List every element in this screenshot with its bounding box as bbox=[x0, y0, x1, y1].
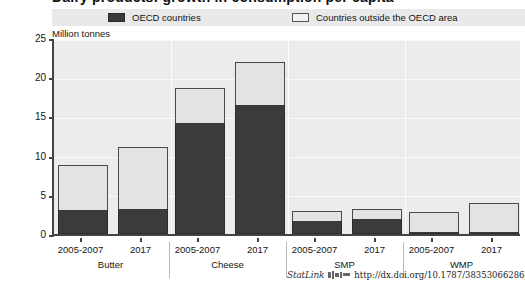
x-tick-mark bbox=[491, 238, 493, 242]
y-tick-mark-20 bbox=[49, 78, 54, 80]
x-tick-mark bbox=[314, 238, 316, 242]
y-tick-label-10: 10 bbox=[8, 152, 46, 162]
gridline-25 bbox=[54, 40, 520, 41]
bar-butter-2005-2007 bbox=[58, 165, 108, 234]
x-period-label-butter-2005-2007: 2005-2007 bbox=[51, 244, 111, 255]
bar-segment-oecd bbox=[409, 232, 459, 234]
bar-cheese-2017 bbox=[235, 62, 285, 234]
bar-segment-non-oecd bbox=[469, 203, 519, 232]
y-tick-mark-10 bbox=[49, 157, 54, 159]
x-tick-mark bbox=[257, 238, 259, 242]
x-tick-mark bbox=[374, 238, 376, 242]
bar-segment-oecd bbox=[352, 219, 402, 234]
bar-smp-2017 bbox=[352, 209, 402, 234]
bar-segment-oecd bbox=[235, 105, 285, 234]
x-period-label-smp-2005-2007: 2005-2007 bbox=[285, 244, 345, 255]
bar-segment-oecd bbox=[292, 221, 342, 234]
bar-segment-oecd bbox=[175, 123, 225, 234]
x-tick-mark bbox=[431, 238, 433, 242]
y-tick-label-5: 5 bbox=[8, 191, 46, 201]
page-title: Dairy products: growth in consumption pe… bbox=[52, 0, 394, 5]
y-tick-label-20: 20 bbox=[8, 73, 46, 83]
y-tick-mark-25 bbox=[49, 39, 54, 41]
legend-swatch-icon-oecd bbox=[108, 13, 125, 22]
chart-legend: OECD countries Countries outside the OEC… bbox=[52, 9, 525, 26]
gridline-20 bbox=[54, 79, 520, 80]
bar-segment-non-oecd bbox=[175, 88, 225, 122]
x-group-label-butter: Butter bbox=[52, 259, 169, 270]
legend-label-non-oecd: Countries outside the OECD area bbox=[316, 12, 458, 23]
x-period-label-cheese-2017: 2017 bbox=[228, 244, 288, 255]
x-period-label-cheese-2005-2007: 2005-2007 bbox=[168, 244, 228, 255]
statlink-footer: StatLink http://dx.doi.org/10.1787/38353… bbox=[287, 268, 525, 282]
chart-plot-area: 0510152025 2005-20072017Butter2005-20072… bbox=[0, 40, 525, 245]
statlink-barcode-icon bbox=[328, 271, 350, 279]
bar-segment-oecd bbox=[469, 232, 519, 234]
gridline-15 bbox=[54, 118, 520, 119]
legend-label-oecd: OECD countries bbox=[132, 12, 201, 23]
y-tick-mark-5 bbox=[49, 196, 54, 198]
x-tick-mark bbox=[197, 238, 199, 242]
bar-smp-2005-2007 bbox=[292, 211, 342, 234]
legend-item-oecd-countries: OECD countries bbox=[108, 9, 201, 26]
x-group-label-cheese: Cheese bbox=[169, 259, 286, 270]
legend-item-non-oecd-countries: Countries outside the OECD area bbox=[292, 9, 458, 26]
group-separator-wmp bbox=[405, 40, 406, 234]
statlink-url[interactable]: http://dx.doi.org/10.1787/383530662862 bbox=[354, 270, 525, 280]
bar-segment-non-oecd bbox=[58, 165, 108, 210]
y-tick-label-25: 25 bbox=[8, 34, 46, 44]
x-period-label-wmp-2005-2007: 2005-2007 bbox=[402, 244, 462, 255]
legend-swatch-icon-non-oecd bbox=[292, 13, 309, 22]
group-separator-smp bbox=[288, 40, 289, 234]
y-axis-title: Million tonnes bbox=[52, 28, 110, 39]
bar-segment-non-oecd bbox=[235, 62, 285, 106]
x-period-label-butter-2017: 2017 bbox=[111, 244, 171, 255]
x-period-label-smp-2017: 2017 bbox=[345, 244, 405, 255]
bar-segment-non-oecd bbox=[118, 147, 168, 209]
bar-butter-2017 bbox=[118, 147, 168, 234]
y-tick-mark-0 bbox=[49, 235, 54, 237]
x-period-label-wmp-2017: 2017 bbox=[462, 244, 522, 255]
bar-segment-oecd bbox=[58, 210, 108, 234]
x-tick-mark bbox=[80, 238, 82, 242]
bar-cheese-2005-2007 bbox=[175, 88, 225, 234]
bar-segment-non-oecd bbox=[292, 211, 342, 220]
bar-segment-non-oecd bbox=[409, 212, 459, 232]
bar-segment-oecd bbox=[118, 209, 168, 234]
group-separator-cheese bbox=[171, 40, 172, 234]
y-tick-label-0: 0 bbox=[8, 230, 46, 240]
bar-wmp-2005-2007 bbox=[409, 212, 459, 234]
y-tick-mark-15 bbox=[49, 117, 54, 119]
x-tick-mark bbox=[140, 238, 142, 242]
y-tick-label-15: 15 bbox=[8, 112, 46, 122]
figure-title-strip: Dairy products: growth in consumption pe… bbox=[0, 0, 525, 9]
plot-canvas: 0510152025 bbox=[52, 40, 520, 236]
statlink-label: StatLink bbox=[287, 270, 324, 280]
bar-wmp-2017 bbox=[469, 203, 519, 234]
bar-segment-non-oecd bbox=[352, 209, 402, 219]
